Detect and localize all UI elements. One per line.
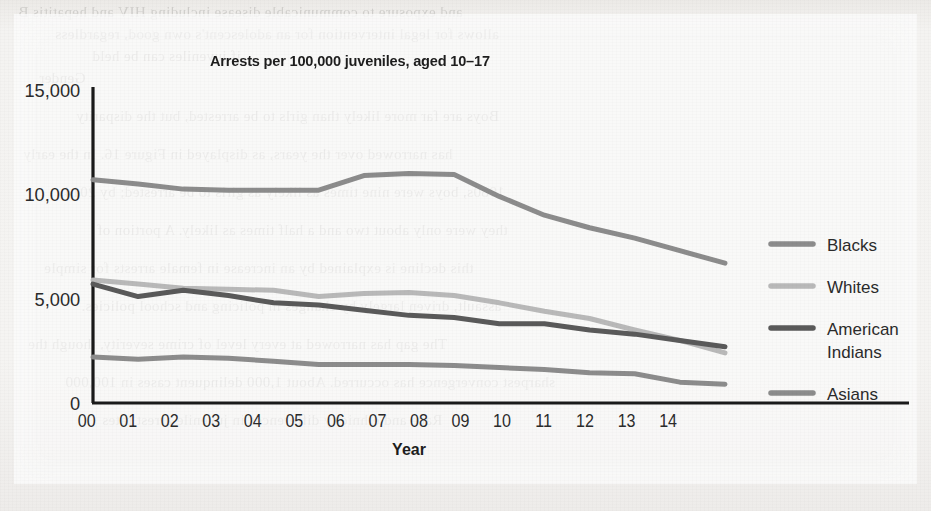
x-axis-tick-label: 10 bbox=[493, 411, 511, 431]
legend-label: Blacks bbox=[827, 236, 877, 255]
legend-label: Whites bbox=[827, 278, 879, 297]
x-axis-tick-label: 05 bbox=[285, 411, 303, 431]
series-group bbox=[93, 173, 725, 384]
x-axis-tick-label: 00 bbox=[78, 411, 96, 431]
legend-label: American bbox=[827, 320, 899, 339]
x-axis-tick-label: 14 bbox=[659, 411, 677, 431]
x-axis-tick-labels: 000102030405060708091011121314 bbox=[78, 411, 677, 431]
x-axis-tick-label: 01 bbox=[119, 411, 137, 431]
line-chart: Arrests per 100,000 juveniles, aged 10–1… bbox=[14, 14, 917, 484]
x-axis-tick-label: 13 bbox=[618, 411, 636, 431]
y-axis-tick-label: 15,000 bbox=[24, 80, 80, 101]
x-axis-tick-label: 09 bbox=[452, 411, 470, 431]
legend-label-continued: Indians bbox=[827, 343, 882, 362]
y-axis-tick-label: 10,000 bbox=[24, 184, 80, 205]
x-axis-title: Year bbox=[392, 441, 426, 458]
x-axis-tick-label: 12 bbox=[576, 411, 594, 431]
x-axis-tick-label: 11 bbox=[535, 411, 552, 431]
x-axis-tick-label: 06 bbox=[327, 411, 345, 431]
legend-label: Asians bbox=[827, 385, 878, 404]
x-axis-title-label: Year bbox=[392, 441, 426, 458]
x-axis-tick-label: 07 bbox=[368, 411, 386, 431]
x-axis-tick-label: 04 bbox=[244, 411, 262, 431]
y-axis-tick-labels: 05,00010,00015,000 bbox=[24, 80, 80, 414]
figure-card: Arrests per 100,000 juveniles, aged 10–1… bbox=[14, 14, 917, 484]
y-axis-tick-label: 5,000 bbox=[35, 288, 81, 309]
series-line-asians bbox=[93, 357, 725, 384]
x-axis-tick-label: 03 bbox=[202, 411, 220, 431]
chart-legend: BlacksWhitesAmericanIndiansAsians bbox=[771, 236, 899, 404]
series-line-blacks bbox=[93, 173, 725, 263]
x-axis-tick-label: 02 bbox=[161, 411, 179, 431]
x-axis-tick-label: 08 bbox=[410, 411, 428, 431]
chart-plot-area: 05,00010,00015,000 000102030405060708091… bbox=[14, 14, 917, 484]
